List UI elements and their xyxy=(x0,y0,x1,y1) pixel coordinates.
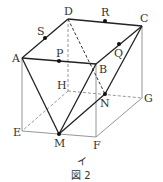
label-F: F xyxy=(93,139,101,152)
marked-points xyxy=(43,19,121,136)
cube-diagram: A B C D E F G H P Q R S M N イ 図 2 xyxy=(0,0,163,182)
label-D: D xyxy=(64,5,73,18)
label-S: S xyxy=(37,25,45,38)
segment-MN xyxy=(59,94,105,134)
figure-caption: 図 2 xyxy=(71,170,91,181)
label-B: B xyxy=(99,63,107,76)
point-M xyxy=(57,132,61,136)
label-M: M xyxy=(54,137,65,150)
label-A: A xyxy=(11,52,21,65)
label-C: C xyxy=(140,12,148,25)
label-H: H xyxy=(57,79,67,92)
label-G: G xyxy=(144,92,153,105)
segment-NC xyxy=(105,26,142,94)
segment-BM xyxy=(59,64,96,134)
label-P: P xyxy=(56,47,64,60)
point-Q xyxy=(117,42,121,46)
segment-AM xyxy=(22,58,59,134)
label-R: R xyxy=(101,6,110,19)
edge-HE xyxy=(22,91,68,131)
label-N: N xyxy=(100,97,110,110)
point-N xyxy=(103,92,107,96)
point-R xyxy=(103,19,107,23)
label-E: E xyxy=(13,126,21,139)
label-Q: Q xyxy=(114,47,123,60)
sub-label: イ xyxy=(77,156,87,167)
